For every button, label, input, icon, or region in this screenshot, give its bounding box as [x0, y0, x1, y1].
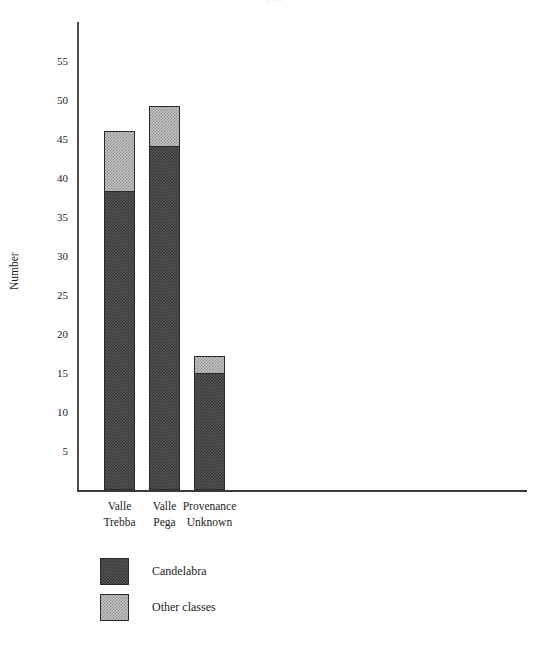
legend-swatch-other-classes: [100, 594, 129, 621]
bar-segment-other-classes: [149, 106, 180, 147]
y-tick-label: 20: [34, 329, 68, 340]
caption-remnant: · · ·: [0, 0, 548, 2]
y-tick-label: 45: [34, 134, 68, 145]
y-tick-label: 55: [34, 56, 68, 67]
bar-segment-candelabra: [194, 373, 225, 490]
y-tick-label: 15: [34, 368, 68, 379]
bar-valle-pega: [149, 106, 180, 491]
y-axis-tick-labels: 510152025303540455055: [30, 0, 68, 500]
plot-area: [78, 22, 527, 491]
x-axis-label-provenance-unknown: ProvenanceUnknown: [165, 498, 255, 530]
legend-label: Candelabra: [152, 564, 207, 579]
y-tick-label: 50: [34, 95, 68, 106]
y-tick-label: 10: [34, 407, 68, 418]
legend-item: Other classes: [100, 594, 400, 630]
y-tick-label: 25: [34, 290, 68, 301]
legend-label: Other classes: [152, 600, 216, 615]
y-tick-label: 40: [34, 173, 68, 184]
x-axis-category-labels: ValleTrebbaVallePegaProvenanceUnknown: [78, 498, 527, 538]
x-axis-label-line: Unknown: [165, 514, 255, 530]
bar-segment-candelabra: [104, 191, 135, 490]
y-tick-label: 35: [34, 212, 68, 223]
legend-item: Candelabra: [100, 558, 400, 594]
bar-valle-trebba: [104, 131, 135, 491]
y-tick-label: 30: [34, 251, 68, 262]
bar-segment-other-classes: [104, 131, 135, 193]
chart-legend: CandelabraOther classes: [100, 558, 400, 630]
chart-figure: · · · 510152025303540455055 Number Valle…: [0, 0, 548, 648]
bar-segment-candelabra: [149, 146, 180, 490]
x-axis-label-line: Provenance: [165, 498, 255, 514]
bar-provenance-unknown: [194, 356, 225, 491]
bar-segment-other-classes: [194, 356, 225, 374]
legend-swatch-candelabra: [100, 558, 129, 585]
y-tick-label: 5: [34, 446, 68, 457]
y-axis-title: Number: [8, 252, 20, 290]
